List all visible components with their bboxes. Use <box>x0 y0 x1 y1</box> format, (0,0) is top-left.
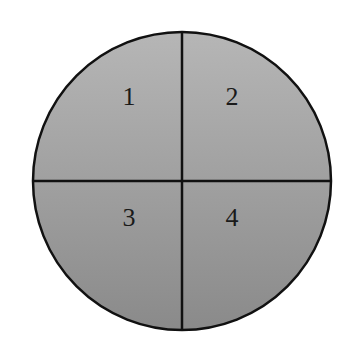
quadrant-label-3: 3 <box>123 203 136 232</box>
quadrant-label-2: 2 <box>226 82 239 111</box>
quadrant-circle-diagram: 1 2 3 4 <box>0 0 353 348</box>
quadrant-label-1: 1 <box>123 82 136 111</box>
quadrant-label-4: 4 <box>226 203 239 232</box>
